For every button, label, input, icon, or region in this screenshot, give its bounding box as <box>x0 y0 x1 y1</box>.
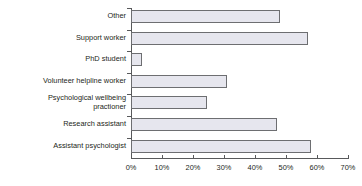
bar <box>131 10 280 23</box>
bar <box>131 32 308 45</box>
plot-area <box>131 8 348 159</box>
y-axis-tick <box>127 138 131 139</box>
bar <box>131 53 142 66</box>
y-axis-category-label: Support worker <box>0 34 126 43</box>
y-axis-category-label: Assistant psychologist <box>0 142 126 151</box>
x-axis-tick-label: 70% <box>328 163 362 172</box>
y-axis-tick <box>127 30 131 31</box>
y-axis-category-label: PhD student <box>0 55 126 64</box>
x-axis-tick <box>348 155 349 159</box>
bar <box>131 75 227 88</box>
x-axis-tick <box>317 155 318 159</box>
y-axis-tick <box>127 51 131 52</box>
y-axis-category-label: Other <box>0 12 126 21</box>
y-axis-category-label: Psychological wellbeing practioner <box>0 94 126 111</box>
bar-chart: OtherSupport workerPhD studentVolunteer … <box>0 0 362 186</box>
y-axis-tick <box>127 8 131 9</box>
bar <box>131 96 207 109</box>
x-axis-tick <box>131 155 132 159</box>
bar <box>131 140 311 153</box>
x-axis-tick <box>255 155 256 159</box>
y-axis-tick <box>127 116 131 117</box>
x-axis-tick <box>286 155 287 159</box>
y-axis-category-labels: OtherSupport workerPhD studentVolunteer … <box>0 8 126 159</box>
x-axis-tick <box>224 155 225 159</box>
y-axis-category-label: Volunteer helpline worker <box>0 77 126 86</box>
y-axis-tick <box>127 94 131 95</box>
y-axis-tick <box>127 73 131 74</box>
bar <box>131 118 277 131</box>
y-axis-category-label: Research assistant <box>0 120 126 129</box>
x-axis-tick <box>193 155 194 159</box>
x-axis-tick <box>162 155 163 159</box>
